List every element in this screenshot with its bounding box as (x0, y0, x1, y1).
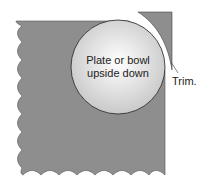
plate-label-line2: upside down (80, 67, 156, 80)
trim-label: Trim. (172, 75, 197, 88)
plate-label: Plate or bowl upside down (80, 54, 156, 80)
diagram-canvas (0, 0, 207, 183)
plate-label-line1: Plate or bowl (80, 54, 156, 67)
